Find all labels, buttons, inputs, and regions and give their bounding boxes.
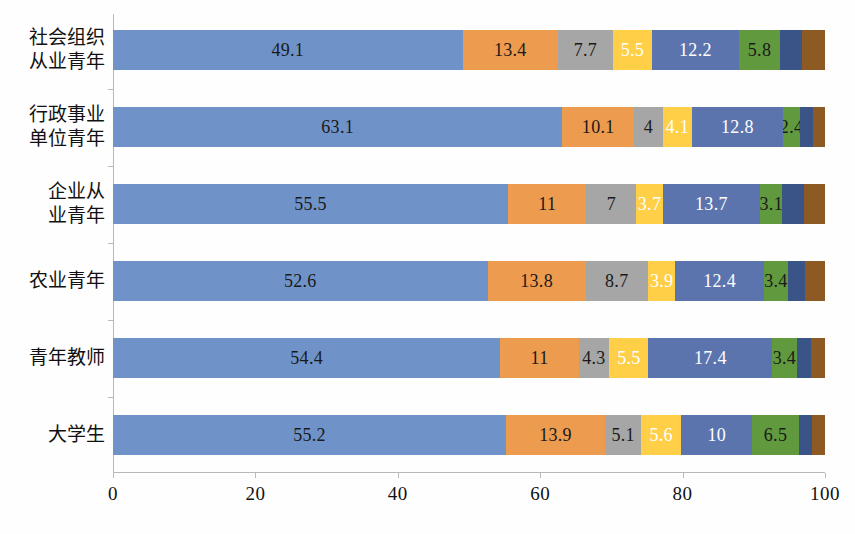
- bar-segment: [799, 415, 813, 455]
- bar-segment-value-label: 4.3: [582, 349, 605, 367]
- bar-segment: 13.7: [663, 184, 761, 224]
- bar-segment-value-label: 2.4: [783, 118, 800, 136]
- bar-segment: 54.4: [113, 338, 500, 378]
- bar-segment-value-label: 8.7: [605, 272, 628, 290]
- x-tick-label: 40: [388, 483, 408, 505]
- bar-segment: 7.7: [558, 30, 613, 70]
- bar-segment: 13.8: [488, 261, 586, 301]
- bar-segment: 2.4: [783, 107, 800, 147]
- bar-segment-value-label: 63.1: [321, 118, 354, 136]
- bar-segment: 5.5: [609, 338, 648, 378]
- bar-segment: 3.4: [772, 338, 796, 378]
- bar-row: 52.613.88.73.912.43.4: [113, 261, 825, 301]
- x-tick-mark: [113, 473, 114, 478]
- y-tick-mark: [108, 243, 113, 244]
- bar-segment: 10.1: [562, 107, 634, 147]
- bar-segment-value-label: 52.6: [284, 272, 317, 290]
- bar-segment-value-label: 13.7: [695, 195, 728, 213]
- x-tick-mark: [540, 473, 541, 478]
- x-tick-label: 100: [810, 483, 840, 505]
- bar-segment: 49.1: [113, 30, 463, 70]
- bar-segment-value-label: 13.9: [539, 426, 572, 444]
- bar-segment: 3.4: [764, 261, 788, 301]
- bar-row: 63.110.144.112.82.4: [113, 107, 825, 147]
- bar-row: 49.113.47.75.512.25.8: [113, 30, 825, 70]
- bar-segment-value-label: 7: [607, 195, 616, 213]
- x-tick-label: 60: [530, 483, 550, 505]
- bar-segment-value-label: 7.7: [574, 41, 597, 59]
- bar-segment: [804, 184, 825, 224]
- bar-segment-value-label: 13.8: [520, 272, 553, 290]
- bar-segment: [805, 261, 825, 301]
- bar-segment: [811, 338, 825, 378]
- category-label: 大学生: [0, 423, 105, 447]
- bar-segment-value-label: 49.1: [271, 41, 304, 59]
- bar-segment: 17.4: [648, 338, 772, 378]
- x-tick-mark: [398, 473, 399, 478]
- plot-area: 020406080100 49.113.47.75.512.25.863.110…: [113, 14, 825, 473]
- bar-segment: 3.7: [636, 184, 662, 224]
- bar-segment: 55.2: [113, 415, 506, 455]
- category-label: 农业青年: [0, 269, 105, 293]
- bar-segment: 5.8: [739, 30, 780, 70]
- bar-segment: 5.6: [641, 415, 681, 455]
- x-axis-line: [113, 472, 825, 473]
- bar-row: 55.213.95.15.6106.5: [113, 415, 825, 455]
- bar-segment-value-label: 3.9: [650, 272, 673, 290]
- bar-segment: 4.3: [579, 338, 610, 378]
- bar-segment: 10: [681, 415, 752, 455]
- bar-segment: 5.1: [605, 415, 641, 455]
- bar-segment: 11: [500, 338, 578, 378]
- bar-segment: 7: [586, 184, 636, 224]
- bar-segment-value-label: 12.2: [679, 41, 712, 59]
- bar-segment-value-label: 3.7: [638, 195, 661, 213]
- bar-segment-value-label: 5.8: [748, 41, 771, 59]
- bar-segment-value-label: 5.5: [621, 41, 644, 59]
- bar-segment: 4.1: [663, 107, 692, 147]
- x-tick-label: 20: [245, 483, 265, 505]
- y-axis-line: [113, 14, 114, 473]
- bar-segment-value-label: 10.1: [582, 118, 615, 136]
- bar-segment-value-label: 12.8: [721, 118, 754, 136]
- category-label: 行政事业 单位青年: [0, 103, 105, 151]
- bar-segment-value-label: 4.1: [666, 118, 689, 136]
- bar-segment-value-label: 17.4: [694, 349, 727, 367]
- bar-segment: [802, 30, 825, 70]
- bar-segment-value-label: 10: [707, 426, 726, 444]
- bar-row: 55.51173.713.73.1: [113, 184, 825, 224]
- bar-segment: [780, 30, 802, 70]
- bar-segment: [800, 107, 813, 147]
- bar-segment: [797, 338, 812, 378]
- x-tick-mark: [255, 473, 256, 478]
- bar-segment-value-label: 5.5: [617, 349, 640, 367]
- bar-segment: 63.1: [113, 107, 562, 147]
- bar-segment: 13.9: [506, 415, 605, 455]
- bar-segment-value-label: 11: [531, 349, 549, 367]
- bar-segment-value-label: 12.4: [703, 272, 736, 290]
- bar-segment-value-label: 5.1: [611, 426, 634, 444]
- bar-segment: 55.5: [113, 184, 508, 224]
- bar-segment: 3.9: [648, 261, 676, 301]
- bar-segment-value-label: 11: [538, 195, 556, 213]
- bar-segment: [812, 415, 825, 455]
- bar-segment: 11: [508, 184, 586, 224]
- x-tick-mark: [825, 473, 826, 478]
- category-label: 企业从 业青年: [0, 180, 105, 228]
- category-label: 社会组织 从业青年: [0, 26, 105, 74]
- bar-segment: 13.4: [463, 30, 558, 70]
- y-tick-mark: [108, 166, 113, 167]
- bar-segment-value-label: 3.4: [773, 349, 796, 367]
- y-tick-mark: [108, 397, 113, 398]
- bar-segment-value-label: 54.4: [290, 349, 323, 367]
- bar-segment: 4: [634, 107, 662, 147]
- bar-segment-value-label: 13.4: [494, 41, 527, 59]
- category-label: 青年教师: [0, 346, 105, 370]
- bar-segment-value-label: 55.2: [293, 426, 326, 444]
- bar-segment: [788, 261, 805, 301]
- bar-segment: 6.5: [752, 415, 798, 455]
- y-tick-mark: [108, 320, 113, 321]
- stacked-bar-chart: 020406080100 49.113.47.75.512.25.863.110…: [0, 0, 855, 534]
- bar-segment: 52.6: [113, 261, 488, 301]
- bar-segment-value-label: 5.6: [650, 426, 673, 444]
- bar-segment-value-label: 3.4: [764, 272, 787, 290]
